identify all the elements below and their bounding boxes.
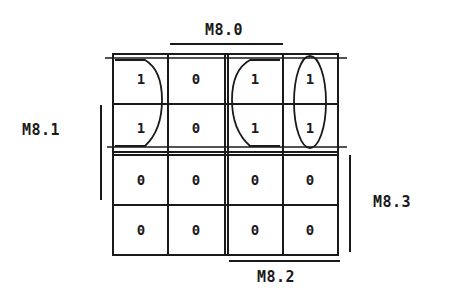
cell-r0-c0: 1 [115, 56, 167, 102]
karnaugh-map: M8.0 M8.1 M8.3 M8.2 1 0 1 1 1 0 1 1 0 0 … [0, 0, 457, 303]
cell-r1-c3: 1 [284, 105, 336, 151]
cell-r3-c3: 0 [284, 207, 336, 253]
cell-r3-c0: 0 [115, 207, 167, 253]
kmap-grid [0, 0, 457, 303]
cell-r1-c1: 0 [170, 105, 222, 151]
cell-r1-c0: 1 [115, 105, 167, 151]
cell-r2-c2: 0 [229, 157, 281, 203]
label-m80: M8.0 [205, 21, 243, 39]
cell-r0-c1: 0 [170, 56, 222, 102]
cell-r1-c2: 1 [229, 105, 281, 151]
cell-r3-c2: 0 [229, 207, 281, 253]
cell-r0-c2: 1 [229, 56, 281, 102]
cell-r0-c3: 1 [284, 56, 336, 102]
cell-r3-c1: 0 [170, 207, 222, 253]
label-m81: M8.1 [22, 121, 60, 139]
label-m82: M8.2 [257, 268, 295, 286]
cell-r2-c0: 0 [115, 157, 167, 203]
cell-r2-c3: 0 [284, 157, 336, 203]
cell-r2-c1: 0 [170, 157, 222, 203]
label-m83: M8.3 [373, 193, 411, 211]
